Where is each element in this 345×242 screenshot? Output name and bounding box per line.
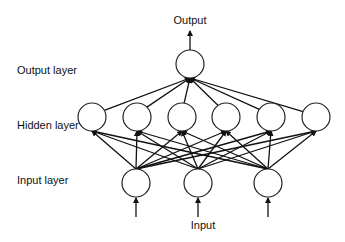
hidden-node: [257, 103, 285, 131]
connection-edge: [136, 131, 182, 169]
input-node: [184, 169, 212, 197]
connection-edge: [92, 131, 136, 169]
input-layer-label: Input layer: [17, 174, 69, 186]
connection-edge: [198, 131, 271, 169]
hidden-node: [123, 103, 151, 131]
output-node: [176, 50, 204, 78]
output-layer-label: Output layer: [17, 64, 77, 76]
neural-network-diagram: Output Output layer Hidden layer Input l…: [0, 0, 345, 242]
connection-edge: [198, 131, 316, 169]
output-label: Output: [173, 14, 206, 26]
hidden-node: [302, 103, 330, 131]
input-node: [254, 169, 282, 197]
connection-edge: [268, 131, 271, 169]
hidden-node: [212, 103, 240, 131]
hidden-layer-label: Hidden layer: [17, 119, 79, 131]
input-label: Input: [191, 219, 215, 231]
hidden-node: [78, 103, 106, 131]
connection-edge: [136, 131, 137, 169]
nodes: [78, 50, 330, 197]
connection-edge: [92, 131, 268, 169]
input-hidden-connections: [92, 131, 316, 169]
input-node: [122, 169, 150, 197]
hidden-node: [168, 103, 196, 131]
